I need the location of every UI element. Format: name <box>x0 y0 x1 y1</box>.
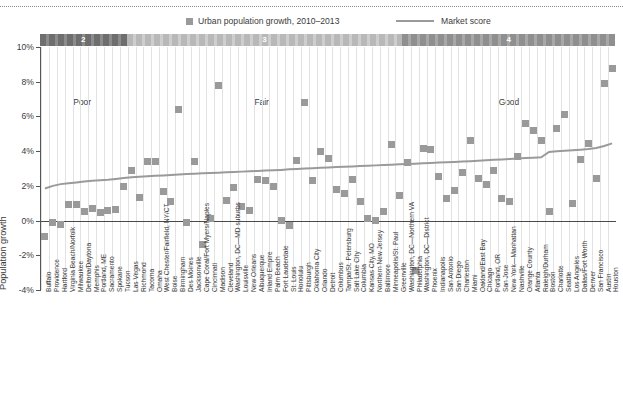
x-axis-category-label: Portland, OR <box>495 254 502 292</box>
x-axis-category-label: Columbia <box>361 264 368 292</box>
x-axis-category-label: Orlando <box>322 269 329 292</box>
x-axis-category-label: Honolulu <box>298 266 305 292</box>
x-axis-category-label: Louisville <box>243 265 250 292</box>
legend-item-population-growth: Urban population growth, 2010–2013 <box>186 13 339 29</box>
x-axis-category-label: Washington, DC—MD suburbs <box>235 202 242 292</box>
score-band-segment-4: 4 <box>402 34 615 46</box>
market-score-polyline <box>45 143 612 188</box>
y-axis-tick <box>36 290 41 291</box>
x-axis-category-label: Nashville <box>519 265 526 292</box>
x-axis-category-label: Jacksonville <box>196 256 203 292</box>
score-band-segment-2: 2 <box>40 34 127 46</box>
x-axis-category-label: Detroit <box>330 273 337 292</box>
x-axis-category-label: Boise <box>172 276 179 293</box>
x-axis-category-label: Northern New Jersey <box>377 230 384 292</box>
x-axis-category-label: Houston <box>613 267 620 292</box>
y-axis-tick-label: -4% <box>0 286 34 295</box>
score-band-segment-3: 3 <box>127 34 403 46</box>
x-axis-category-label: Kansas City, MO <box>369 243 376 292</box>
x-axis-category-label: San Francisco <box>598 250 605 292</box>
x-axis-category-label: Indianapolis <box>440 257 447 292</box>
x-axis-category-label: Richmond <box>141 262 148 292</box>
chart-legend: Urban population growth, 2010–2013 Marke… <box>0 13 623 29</box>
x-axis-category-label: Virginia Beach/Norfolk <box>70 227 77 292</box>
x-axis-category-label: Pittsburgh <box>306 262 313 292</box>
x-axis-category-label: Tucson <box>125 271 132 292</box>
y-axis-tick-label: 0% <box>0 217 34 226</box>
x-axis-category-label: Seattle <box>566 271 573 292</box>
x-axis-category-label: New Orleans <box>251 254 258 292</box>
market-score-band: 2 3 4 <box>40 34 615 46</box>
x-axis-category-labels: BuffaloProvidenceHartfordVirginia Beach/… <box>40 292 623 403</box>
x-axis-category-label: Denver <box>590 271 597 292</box>
x-axis-category-label: Buffalo <box>46 272 53 292</box>
y-axis-tick-label: -2% <box>0 251 34 260</box>
x-axis-category-label: San Antonio <box>448 256 455 292</box>
y-axis-tick-label: 4% <box>0 147 34 156</box>
x-axis-category-label: Tacoma <box>149 269 156 292</box>
x-axis-category-label: Fort Lauderdale <box>283 245 290 292</box>
y-axis-tick-label: 8% <box>0 78 34 87</box>
x-axis-category-label: Dallas/Fort Worth <box>582 241 589 292</box>
x-axis-category-label: Inland Empire <box>267 251 274 292</box>
score-band-number-2: 2 <box>81 36 85 44</box>
x-axis-category-label: Charlotte <box>558 265 565 292</box>
x-axis-category-label: Charleston <box>464 260 471 292</box>
x-axis-category-label: Tampa/St. Petersburg <box>346 228 353 292</box>
x-axis-category-label: San Diego <box>456 261 463 292</box>
x-axis-category-label: Columbus <box>338 262 345 292</box>
x-axis-category-label: New York—Manhattan <box>511 226 518 292</box>
x-axis-category-label: Minneapolis/St. Paul <box>393 232 400 292</box>
x-axis-category-label: Miami <box>472 274 479 292</box>
x-axis-category-label: Greenville <box>401 262 408 292</box>
x-axis-category-label: Orange County <box>527 247 534 292</box>
x-axis-category-label: Hartford <box>62 268 69 292</box>
legend-item-market-score: Market score <box>396 13 491 29</box>
x-axis-category-label: Sacramento <box>109 256 116 292</box>
y-axis-tick-label: 6% <box>0 112 34 121</box>
legend-label-market-score: Market score <box>441 16 491 26</box>
x-axis-category-label: Madison <box>220 267 227 292</box>
x-axis-category-label: Oklahoma City <box>314 249 321 292</box>
score-band-number-4: 4 <box>506 36 510 44</box>
x-axis-category-label: Cincinnati <box>212 263 219 292</box>
x-axis-category-label: Atlanta <box>535 271 542 292</box>
x-axis-category-label: Spokane <box>117 266 124 292</box>
x-axis-category-label: Los Angeles <box>574 256 581 292</box>
x-axis-category-label: Palm Beach <box>275 256 282 292</box>
x-axis-category-label: Baltimore <box>385 264 392 292</box>
x-axis-category-label: Providence <box>54 259 61 292</box>
legend-label-population-growth: Urban population growth, 2010–2013 <box>198 16 339 26</box>
x-axis-category-label: Washington, DC—Northern VA <box>409 202 416 292</box>
y-axis-tick-label: 2% <box>0 182 34 191</box>
x-axis-category-label: Deltona/Daytona <box>86 243 93 292</box>
y-axis-tick-label: 10% <box>0 43 34 52</box>
top-divider <box>0 6 623 8</box>
x-axis-category-label: San Jose <box>503 265 510 293</box>
x-axis-category-label: Phoenix <box>432 268 439 292</box>
legend-line-icon <box>396 20 434 23</box>
x-axis-category-label: Birmingham <box>180 257 187 292</box>
x-axis-category-label: Cape Coral/Fort Myers/Naples <box>204 203 211 292</box>
x-axis-category-label: Des Moines <box>188 257 195 292</box>
x-axis-category-label: Las Vegas <box>133 261 140 292</box>
x-axis-category-label: Albuquerque <box>259 255 266 292</box>
legend-swatch-icon <box>186 18 193 25</box>
x-axis-category-label: Washington, DC—District <box>424 217 431 292</box>
x-axis-category-label: Milwaukee <box>78 261 85 292</box>
score-band-number-3: 3 <box>262 36 266 44</box>
